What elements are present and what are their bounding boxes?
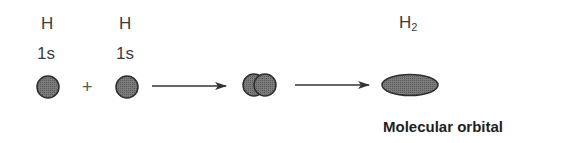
atomic-orbital-1s-2 [116,76,138,98]
atomic-orbital-1s-1 [37,76,59,98]
molecular-orbital-caption: Molecular orbital [383,119,503,134]
overlapping-orbital-right [254,74,276,96]
molecular-orbital-ellipse [382,75,438,96]
